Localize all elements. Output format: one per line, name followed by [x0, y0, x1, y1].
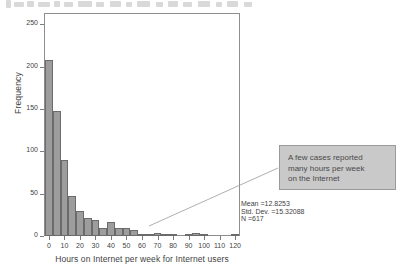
- y-tick-mark: [40, 67, 44, 68]
- histogram-bar: [99, 228, 107, 236]
- histogram-bar: [192, 233, 200, 236]
- annotation-callout-text: A few cases reported many hours per week…: [288, 153, 392, 185]
- histogram-bar: [92, 220, 100, 236]
- histogram-bar: [123, 228, 131, 236]
- histogram-bar: [68, 196, 76, 236]
- y-tick-mark: [40, 194, 44, 195]
- x-tick-mark: [64, 236, 65, 240]
- x-tick-mark: [142, 236, 143, 240]
- histogram-bar: [161, 234, 169, 236]
- histogram-bar: [130, 230, 138, 236]
- annotation-line-3: on the Internet: [288, 174, 392, 185]
- y-tick-mark: [40, 151, 44, 152]
- histogram-bar: [107, 222, 115, 236]
- x-tick-mark: [158, 236, 159, 240]
- y-tick-mark: [40, 24, 44, 25]
- statistics-block: Mean =12.8253 Std. Dev. =15.32088 N =617: [241, 200, 305, 223]
- histogram-bar: [115, 228, 123, 236]
- y-tick-label: 150: [26, 104, 38, 111]
- histogram-bar: [45, 60, 53, 236]
- x-tick-mark: [80, 236, 81, 240]
- x-tick-mark: [95, 236, 96, 240]
- x-tick-mark: [235, 236, 236, 240]
- stat-std-dev: Std. Dev. =15.32088: [241, 208, 305, 216]
- stat-mean: Mean =12.8253: [241, 200, 305, 208]
- x-tick-mark: [189, 236, 190, 240]
- y-tick-label: 100: [26, 146, 38, 153]
- plot-area: [45, 14, 239, 236]
- x-tick-mark: [220, 236, 221, 240]
- y-tick-mark: [40, 109, 44, 110]
- x-tick-label: 120: [223, 242, 247, 249]
- annotation-callout-box: A few cases reported many hours per week…: [279, 145, 396, 190]
- y-tick-label: 0: [34, 231, 38, 238]
- histogram-figure: Frequency 050100150200250 01020304050607…: [0, 0, 402, 274]
- annotation-line-2: many hours per week: [288, 164, 392, 175]
- x-tick-mark: [173, 236, 174, 240]
- x-tick-mark: [204, 236, 205, 240]
- x-tick-mark: [111, 236, 112, 240]
- x-axis-title: Hours on Internet per week for Internet …: [22, 254, 262, 264]
- histogram-bar: [61, 160, 69, 236]
- x-tick-mark: [126, 236, 127, 240]
- x-tick-mark: [49, 236, 50, 240]
- y-tick-mark: [40, 236, 44, 237]
- y-tick-label: 50: [30, 189, 38, 196]
- y-tick-label: 200: [26, 62, 38, 69]
- histogram-bar: [84, 218, 92, 236]
- y-axis-title: Frequency: [13, 53, 23, 133]
- histogram-bar: [53, 111, 61, 236]
- stat-n: N =617: [241, 215, 305, 223]
- annotation-line-1: A few cases reported: [288, 153, 392, 164]
- histogram-bar: [76, 211, 84, 236]
- histogram-bar: [146, 234, 154, 236]
- y-tick-label: 250: [26, 19, 38, 26]
